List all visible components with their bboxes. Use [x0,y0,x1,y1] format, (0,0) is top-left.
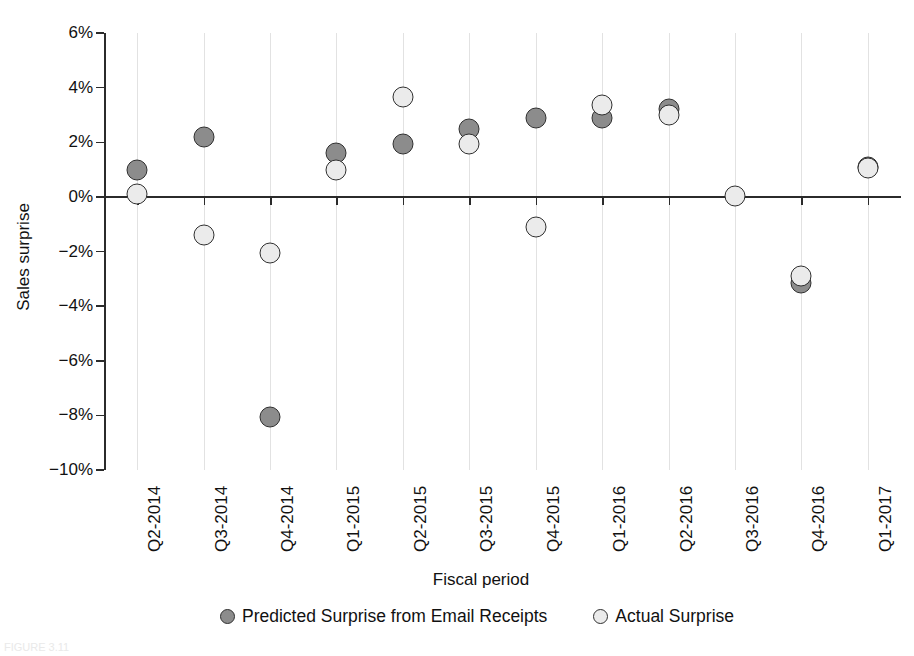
legend-label: Predicted Surprise from Email Receipts [242,606,547,627]
y-tick-mark [96,196,104,198]
chart-legend: Predicted Surprise from Email ReceiptsAc… [0,606,914,627]
data-point-predicted [392,133,413,154]
y-tick-label: −10% [49,460,93,480]
data-point-actual [525,216,546,237]
zero-baseline [104,196,901,198]
x-tick-mark [469,197,471,205]
plot-area: 6%4%2%0%−2%−4%−6%−8%−10% [104,33,901,470]
x-tick-label: Q1-2016 [610,486,630,552]
y-tick-label: 0% [68,187,93,207]
y-tick-mark [96,415,104,417]
data-point-actual [392,87,413,108]
y-tick-label: −6% [59,351,94,371]
data-point-actual [459,133,480,154]
data-point-actual [193,225,214,246]
x-tick-mark [270,197,272,205]
x-tick-mark [801,197,803,205]
y-tick-label: −2% [59,242,94,262]
data-point-actual [326,159,347,180]
gridline [735,33,736,470]
x-tick-mark [403,197,405,205]
gridline [536,33,537,470]
y-tick-mark [96,32,104,34]
x-tick-label: Q2-2015 [411,486,431,552]
y-axis-line [104,33,106,470]
x-tick-label: Q4-2014 [278,486,298,552]
legend-label: Actual Surprise [615,606,734,627]
x-tick-mark [204,197,206,205]
y-tick-label: 4% [68,78,93,98]
data-point-actual [592,95,613,116]
x-tick-mark [536,197,538,205]
gridline [868,33,869,470]
gridline [137,33,138,470]
data-point-predicted [260,406,281,427]
data-point-actual [658,104,679,125]
y-tick-label: 6% [68,23,93,43]
data-point-predicted [193,126,214,147]
y-tick-mark [96,305,104,307]
y-tick-mark [96,251,104,253]
data-point-actual [260,242,281,263]
chart-figure: Sales surprise 6%4%2%0%−2%−4%−6%−8%−10% … [0,0,914,656]
y-tick-mark [96,87,104,89]
x-tick-label: Q1-2015 [344,486,364,552]
legend-item[interactable]: Actual Surprise [593,606,734,627]
x-tick-mark [602,197,604,205]
x-tick-mark [669,197,671,205]
x-tick-mark [336,197,338,205]
y-tick-label: −8% [59,405,94,425]
data-point-actual [724,185,745,206]
y-tick-label: 2% [68,132,93,152]
x-tick-label: Q3-2016 [743,486,763,552]
legend-item[interactable]: Predicted Surprise from Email Receipts [220,606,547,627]
x-tick-label: Q3-2014 [212,486,232,552]
x-tick-label: Q3-2015 [477,486,497,552]
x-tick-label: Q1-2017 [876,486,896,552]
x-axis-title: Fiscal period [0,570,914,590]
y-tick-mark [96,142,104,144]
x-tick-label: Q2-2016 [677,486,697,552]
y-tick-mark [96,360,104,362]
gridline [469,33,470,470]
x-tick-label: Q4-2015 [544,486,564,552]
legend-marker-icon [220,609,235,624]
data-point-predicted [127,159,148,180]
figure-caption: FIGURE 3.11 [4,641,69,653]
legend-marker-icon [593,609,608,624]
gridline [801,33,802,470]
x-tick-label: Q4-2016 [809,486,829,552]
gridline [204,33,205,470]
data-point-actual [127,184,148,205]
y-tick-label: −4% [59,296,94,316]
data-point-actual [791,266,812,287]
gridline [336,33,337,470]
x-axis-title-text: Fiscal period [433,570,529,589]
y-tick-mark [96,469,104,471]
x-tick-label: Q2-2014 [145,486,165,552]
x-tick-mark [868,197,870,205]
data-point-predicted [525,107,546,128]
data-point-actual [857,158,878,179]
y-axis-title: Sales surprise [14,157,34,357]
